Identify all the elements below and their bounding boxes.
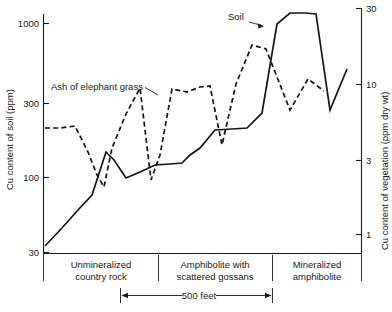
category-label-3-line1: Mineralized <box>293 259 342 270</box>
soil-leader-arrowhead <box>258 23 265 28</box>
category-label-1-line1: Unmineralized <box>71 259 132 270</box>
grass-leader-line <box>145 88 158 96</box>
right-tick-label-30: 30 <box>366 3 377 14</box>
soil-series-label: Soil <box>228 11 244 22</box>
series-ash-of-elephant-grass <box>45 45 324 187</box>
category-band: Unmineralized country rock Amphibolite w… <box>44 254 362 283</box>
chart-svg: 1000 300 100 30 Cu content of soil (ppm)… <box>0 0 392 312</box>
scale-bar-arrow-left <box>122 293 129 298</box>
annotation-soil: Soil <box>228 11 264 28</box>
figure-container: 1000 300 100 30 Cu content of soil (ppm)… <box>0 0 392 312</box>
right-tick-label-10: 10 <box>366 79 377 90</box>
right-tick-label-3: 3 <box>366 155 371 166</box>
category-label-1-line2: country rock <box>75 271 127 282</box>
scale-bar-arrow-right <box>265 293 272 298</box>
left-tick-label-100: 100 <box>23 172 39 183</box>
left-axis-title: Cu content of soil (ppm) <box>4 89 15 190</box>
series-soil <box>45 13 347 246</box>
category-label-2-line1: Amphibolite with <box>180 259 249 270</box>
plot-area <box>45 13 347 246</box>
category-label-2-line2: scattered gossans <box>176 271 253 282</box>
left-axis: 1000 300 100 30 Cu content of soil (ppm) <box>4 14 49 258</box>
scale-bar: 500 feet <box>121 288 273 303</box>
left-tick-label-300: 300 <box>23 98 39 109</box>
scale-bar-label: 500 feet <box>182 290 217 301</box>
right-axis-title: Cu content of vegetation (ppm dry wt) <box>379 92 390 250</box>
right-tick-label-1: 1 <box>366 229 371 240</box>
category-label-3-line2: amphibolite <box>293 271 342 282</box>
annotation-grass: Ash of elephant grass <box>51 81 158 95</box>
grass-series-label: Ash of elephant grass <box>51 81 143 92</box>
left-tick-label-30: 30 <box>28 247 39 258</box>
right-axis: 30 10 3 1 Cu content of vegetation (ppm … <box>356 3 390 254</box>
left-tick-label-1000: 1000 <box>18 18 39 29</box>
